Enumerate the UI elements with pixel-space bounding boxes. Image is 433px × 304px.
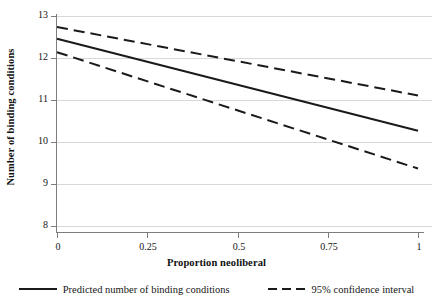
legend-item-ci: 95% confidence interval xyxy=(268,284,415,295)
x-axis-title: Proportion neoliberal xyxy=(0,256,433,269)
legend-dashed-line-icon xyxy=(268,284,306,294)
legend-label-ci: 95% confidence interval xyxy=(312,284,415,295)
y-tick-label-11: 11 xyxy=(26,93,48,104)
x-tick-label-0: 0 xyxy=(38,241,78,252)
chart-figure: 13 12 11 10 9 8 0 0.25 0.5 0.75 1 Number… xyxy=(0,0,433,304)
x-tick-label-075: 0.75 xyxy=(309,241,349,252)
legend-solid-line-icon xyxy=(19,284,57,294)
y-tick-label-12: 12 xyxy=(26,51,48,62)
y-axis-title: Number of binding conditions xyxy=(4,2,18,232)
x-tick-label-025: 0.25 xyxy=(128,241,168,252)
y-tick-label-8: 8 xyxy=(26,219,48,230)
legend-item-predicted: Predicted number of binding conditions xyxy=(19,284,230,295)
legend-label-predicted: Predicted number of binding conditions xyxy=(63,284,230,295)
y-tick-label-13: 13 xyxy=(26,9,48,20)
y-tick-label-9: 9 xyxy=(26,177,48,188)
chart-legend: Predicted number of binding conditions 9… xyxy=(0,277,433,301)
x-tick-label-05: 0.5 xyxy=(219,241,259,252)
x-tick-label-1: 1 xyxy=(399,241,433,252)
y-tick-label-10: 10 xyxy=(26,135,48,146)
